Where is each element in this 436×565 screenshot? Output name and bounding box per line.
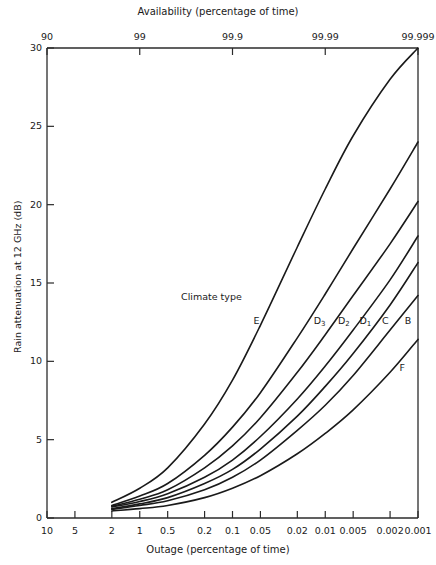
bottom-tick-label: 5 [72,526,78,536]
top-tick-label: 99.999 [401,32,434,42]
curve-label-B: B [405,316,412,326]
curve-label-D1: D1 [359,316,371,326]
bottom-tick-label: 0.01 [315,526,336,536]
bottom-tick-label: 0.1 [225,526,240,536]
bottom-tick-label: 0.001 [404,526,431,536]
bottom-tick-label: 2 [109,526,115,536]
bottom-tick-label: 0.002 [376,526,403,536]
curve-E [112,48,418,502]
curve-D3 [112,142,418,505]
y-tick-marks [47,48,54,518]
y-tick-label: 0 [18,513,42,523]
curve-label-C: C [382,316,389,326]
curve-D2 [112,202,418,507]
y-tick-label: 30 [18,43,42,53]
curve-D1 [112,236,418,507]
top-tick-label: 99.9 [222,32,243,42]
curve-group [112,48,418,511]
curve-label-F: F [399,363,404,373]
x-axis-title: Outage (percentage of time) [0,545,436,555]
curve-label-E: E [254,316,260,326]
y-axis-title: Rain attenuation at 12 GHz (dB) [13,187,23,367]
y-tick-label: 25 [18,122,42,132]
bottom-tick-label: 0.05 [250,526,271,536]
curve-F [112,339,418,511]
y-tick-label: 5 [18,435,42,445]
top-tick-label: 90 [41,32,53,42]
plot-area [0,0,436,565]
top-tick-label: 99 [134,32,146,42]
climate-type-legend-title: Climate type [181,292,242,302]
bottom-tick-label: 0.2 [197,526,212,536]
bottom-tick-label: 0.02 [287,526,308,536]
bottom-tick-marks [47,511,418,518]
rain-attenuation-chart: Availability (percentage of time) 909999… [0,0,436,565]
curve-label-D2: D2 [338,316,350,326]
top-tick-label: 99.99 [312,32,339,42]
curve-label-D3: D3 [314,316,326,326]
bottom-tick-label: 0.005 [340,526,367,536]
bottom-tick-label: 1 [137,526,143,536]
top-tick-marks [47,48,418,55]
bottom-tick-label: 0.5 [160,526,175,536]
bottom-tick-label: 10 [41,526,53,536]
